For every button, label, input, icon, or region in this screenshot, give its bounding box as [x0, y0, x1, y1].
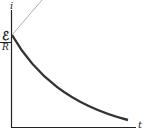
resistance-symbol: R [0, 43, 11, 52]
tangent-line [12, 0, 42, 35]
chart-canvas [0, 0, 147, 139]
emf-symbol: ℰ [0, 30, 11, 42]
y-axis-label: i [10, 1, 13, 11]
decay-curve [12, 35, 128, 120]
x-axis-label: t [138, 120, 142, 130]
emf-over-r-label: ℰ R [0, 30, 11, 52]
